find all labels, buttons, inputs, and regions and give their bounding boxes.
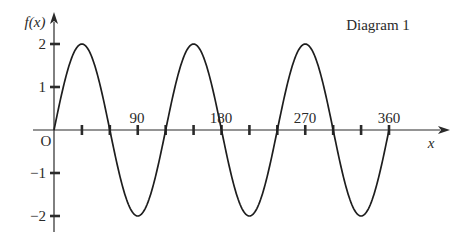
y-tick-label-neg1: −1 (30, 165, 46, 181)
x-tick-label-270: 270 (294, 110, 317, 126)
x-axis-label: x (427, 135, 435, 151)
sine-graph: Diagram 1 f(x) x O 2 1 −1 −2 90 180 270 … (0, 0, 462, 240)
y-tick-label-2: 2 (39, 36, 47, 52)
title: Diagram 1 (346, 17, 410, 33)
x-tick-label-90: 90 (130, 110, 145, 126)
x-tick-label-360: 360 (378, 110, 401, 126)
y-axis-label: f(x) (25, 14, 46, 31)
origin-label: O (41, 133, 52, 149)
y-tick-label-1: 1 (39, 79, 47, 95)
x-tick-label-180: 180 (210, 110, 233, 126)
y-tick-label-neg2: −2 (30, 208, 46, 224)
